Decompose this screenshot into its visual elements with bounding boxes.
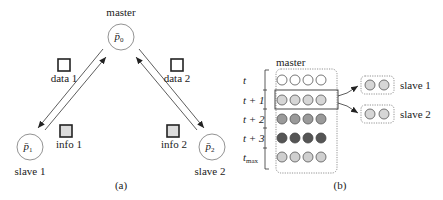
data-1-packet-icon	[58, 59, 70, 71]
panel-a: master p̄0 p̄1 slave 1 p̄2 slave 2 data …	[15, 6, 226, 192]
state-circle	[379, 109, 389, 119]
state-circle	[365, 109, 375, 119]
time-label-t-max: tmax	[243, 151, 259, 165]
state-circle	[277, 114, 287, 124]
state-circle	[316, 133, 326, 143]
time-label-t-plus-1: t + 1	[243, 94, 264, 106]
info-1-label: info 1	[56, 138, 82, 150]
slave-1-buffer-label: slave 1	[400, 79, 431, 91]
state-circle	[303, 133, 313, 143]
caption-a: (a)	[115, 179, 128, 192]
state-circle	[290, 114, 300, 124]
time-bracket	[265, 70, 269, 169]
figure: master p̄0 p̄1 slave 1 p̄2 slave 2 data …	[0, 0, 443, 200]
state-circle	[316, 152, 326, 162]
row-t-plus-1	[277, 95, 326, 105]
data-2-label: data 2	[164, 72, 191, 84]
time-label-t-plus-3: t + 3	[243, 132, 265, 144]
row-t-max	[277, 152, 326, 162]
data-1-label: data 1	[51, 72, 78, 84]
state-circle	[303, 75, 313, 85]
data-2-packet-icon	[171, 59, 183, 71]
state-circle	[277, 152, 287, 162]
state-circle	[365, 80, 375, 90]
slave-1-label: slave 1	[15, 165, 46, 177]
state-circle	[316, 114, 326, 124]
state-circle	[277, 133, 287, 143]
row-t	[277, 75, 326, 85]
state-circle	[277, 75, 287, 85]
arrow-to-slave-2	[338, 103, 358, 113]
time-label-t: t	[243, 74, 247, 86]
state-circle	[290, 95, 300, 105]
master-buffer-label: master	[276, 56, 306, 68]
state-circle	[303, 114, 313, 124]
caption-b: (b)	[334, 179, 347, 192]
panel-b: master t t + 1 t + 2 t + 3 tmax	[243, 56, 431, 192]
row-t-plus-3	[277, 133, 326, 143]
master-label: master	[106, 6, 136, 18]
slave-2-buffer-label: slave 2	[400, 108, 431, 120]
state-circle	[303, 152, 313, 162]
slave-2-label: slave 2	[195, 165, 226, 177]
state-circle	[316, 75, 326, 85]
info-2-packet-icon	[167, 125, 179, 137]
time-label-t-plus-2: t + 2	[243, 113, 265, 125]
row-t-plus-2	[277, 114, 326, 124]
state-circle	[290, 133, 300, 143]
arrow-to-slave-1	[338, 86, 358, 96]
state-circle	[290, 152, 300, 162]
info-2-label: info 2	[161, 138, 187, 150]
state-circle	[379, 80, 389, 90]
state-circle	[277, 95, 287, 105]
state-circle	[303, 95, 313, 105]
state-circle	[316, 95, 326, 105]
arrow-slave-2-to-master	[136, 57, 197, 130]
info-1-packet-icon	[60, 125, 72, 137]
state-circle	[290, 75, 300, 85]
arrow-slave-1-to-master	[45, 57, 106, 130]
